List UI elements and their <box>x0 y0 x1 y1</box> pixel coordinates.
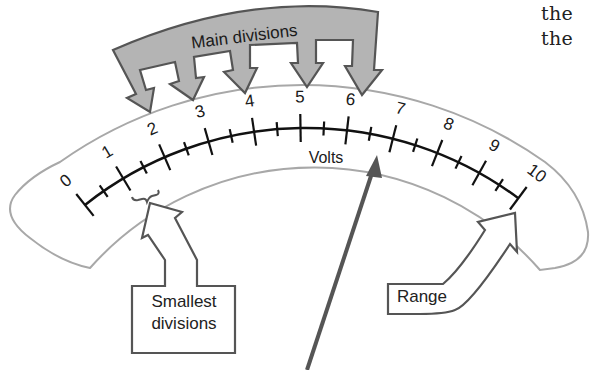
diagram-canvas: 012345678910Volts Main divisions <box>0 0 602 370</box>
side-text-line-2: the <box>541 27 573 49</box>
smallest-divisions-line-1: Smallest <box>135 291 233 313</box>
unit-label: Volts <box>309 149 344 166</box>
voltmeter-diagram: 012345678910Volts Main divisions the the… <box>0 0 602 370</box>
tick-label: 5 <box>295 87 305 106</box>
smallest-divisions-label: Smallest divisions <box>135 291 233 335</box>
minor-tick <box>277 122 278 136</box>
side-text-line-1: the <box>541 2 573 24</box>
minor-tick <box>323 121 324 135</box>
range-label: Range <box>386 286 458 308</box>
meter-pointer <box>307 155 382 370</box>
smallest-divisions-line-2: divisions <box>135 313 233 335</box>
